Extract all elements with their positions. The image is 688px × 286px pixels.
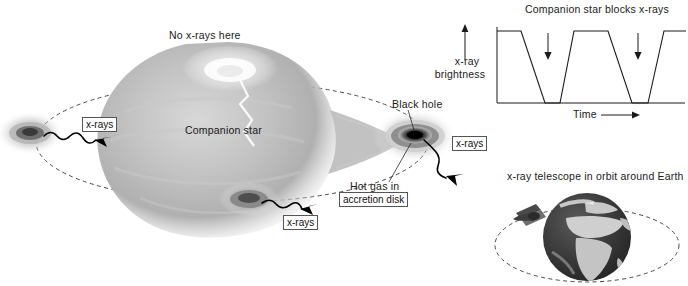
binary-system-graphic: [0, 0, 688, 286]
xray-arrow-right: [446, 174, 464, 186]
eclipse-arrow-1: [544, 33, 551, 60]
telescope-panel-caption: x-ray telescope in orbit around Earth: [507, 170, 684, 182]
label-no-xrays-here: No x-rays here: [169, 29, 241, 41]
light-curve-chart: [462, 24, 686, 118]
light-curve-trace: [497, 31, 686, 103]
y-axis-arrow: [462, 24, 469, 32]
chart-ylabel-line2: brightness: [425, 68, 495, 80]
label-companion-star: Companion star: [185, 124, 262, 136]
label-xrays-bottom: x-rays: [283, 215, 318, 230]
label-hot-gas-in: Hot gas in: [350, 180, 399, 192]
label-black-hole: Black hole: [392, 98, 442, 110]
xray-telescope-satellite: [513, 204, 546, 226]
black-hole-accretion-disk: [373, 109, 464, 186]
chart-ylabel-line1: x-ray: [442, 55, 492, 67]
time-axis-arrow: [632, 112, 640, 119]
diagram-canvas: No x-rays here Companion star Black hole…: [0, 0, 688, 286]
label-xrays-left: x-rays: [82, 117, 117, 132]
chart-caption: Companion star blocks x-rays: [525, 3, 669, 15]
telescope-panel-graphic: [495, 193, 679, 282]
label-xrays-right: x-rays: [452, 136, 487, 151]
eclipse-arrow-2: [634, 33, 641, 60]
black-hole-core: [407, 131, 423, 139]
label-accretion-disk: accretion disk: [339, 192, 408, 207]
chart-xlabel: Time: [573, 108, 597, 120]
